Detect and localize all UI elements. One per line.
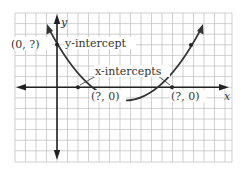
y-intercept-point-label: (0, ?) bbox=[11, 38, 39, 51]
x-intercepts-label: x-intercepts bbox=[95, 65, 162, 78]
y-axis-label: y bbox=[60, 16, 68, 29]
x-intercept-right-point-label: (?, 0) bbox=[171, 90, 199, 103]
x-axis-left-arrow-icon bbox=[16, 84, 26, 90]
y-intercept-dot bbox=[55, 43, 59, 47]
graph-canvas: y-intercept (0, ?) x-intercepts (?, 0) (… bbox=[0, 0, 241, 171]
x-intercept-left-point-label: (?, 0) bbox=[91, 90, 119, 103]
y-axis-up-arrow-icon bbox=[54, 14, 60, 24]
y-intercept-label: y-intercept bbox=[64, 37, 126, 50]
curve-point-dot bbox=[189, 43, 193, 47]
x-intercept-right-dot bbox=[170, 85, 174, 89]
y-axis-down-arrow-icon bbox=[54, 150, 60, 160]
x-intercept-left-dot bbox=[76, 85, 80, 89]
x-axis-label: x bbox=[224, 90, 231, 103]
